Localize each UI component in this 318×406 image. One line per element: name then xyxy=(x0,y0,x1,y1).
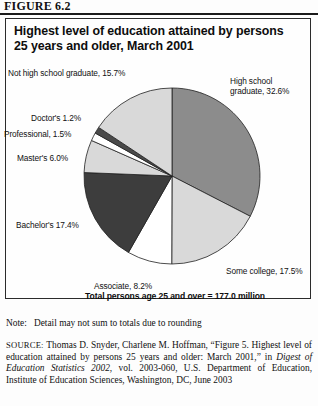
figure-page: FIGURE 6.2 Highest level of education at… xyxy=(0,0,318,406)
note-text: Detail may not sum to totals due to roun… xyxy=(34,318,202,328)
slice-label-doctors: Doctor's 1.2% xyxy=(31,113,81,123)
figure-number: FIGURE 6.2 xyxy=(4,0,71,14)
total-caption: Total persons age 25 and over = 177.0 mi… xyxy=(60,291,290,301)
note-label: Note: xyxy=(6,318,27,328)
note-line: Note: Detail may not sum to totals due t… xyxy=(6,318,312,328)
slice-label-professional: Professional, 1.5% xyxy=(4,129,71,139)
slice-label-some-college: Some college, 17.5% xyxy=(226,266,303,276)
header-divider xyxy=(0,13,318,15)
pie-slice-group xyxy=(84,88,260,264)
slice-label-not-high-school-graduate: Not high school graduate, 15.7% xyxy=(8,68,125,78)
source-text-part1: Thomas D. Snyder, Charlene M. Hoffman, “… xyxy=(6,340,312,362)
slice-label-associate: Associate, 8.2% xyxy=(94,281,152,291)
source-block: SOURCE: Thomas D. Snyder, Charlene M. Ho… xyxy=(6,340,312,386)
slice-label-high-school-graduate: High school graduate, 32.6% xyxy=(230,76,306,96)
source-label: SOURCE: xyxy=(6,340,44,350)
slice-label-masters: Master's 6.0% xyxy=(17,153,68,163)
slice-label-bachelors: Bachelor's 17.4% xyxy=(16,220,79,230)
